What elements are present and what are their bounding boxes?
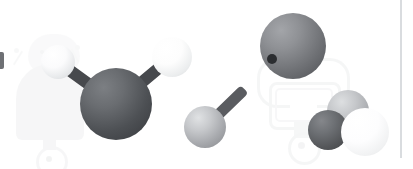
bug-antenna-tip-left-icon (14, 48, 19, 53)
bug-antenna-left-icon (13, 51, 23, 66)
atom-large-spot (267, 54, 277, 64)
atom-center-dark (80, 68, 152, 140)
robot-right-base-dot-icon (298, 142, 305, 149)
right-divider-line (400, 0, 402, 158)
clipped-left-glyph (0, 52, 4, 69)
atom-large-grey (260, 13, 326, 79)
bug-antenna-tip-right-icon (75, 45, 80, 50)
illustration-canvas (0, 0, 413, 169)
robot-base-ring-icon (36, 146, 68, 169)
robot-base-dot-icon (46, 156, 52, 162)
atom-upper-left-white (41, 45, 75, 79)
atom-mid-grey (184, 106, 226, 148)
atom-cluster-white (341, 108, 389, 156)
atom-upper-right-white (152, 37, 192, 77)
